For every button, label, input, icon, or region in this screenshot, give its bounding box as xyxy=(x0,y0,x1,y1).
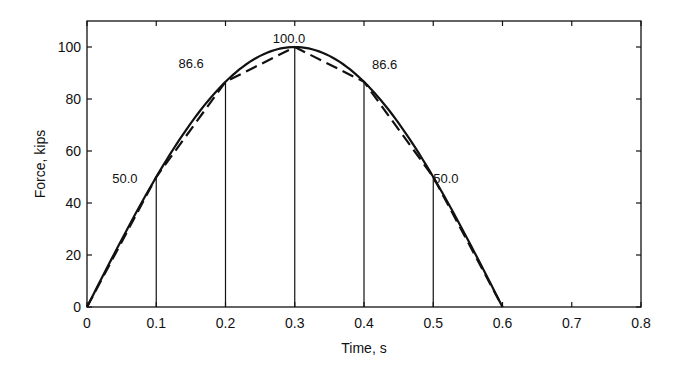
vertical-reference-lines xyxy=(156,47,433,307)
data-point-label: 86.6 xyxy=(372,57,397,72)
y-tick-label: 40 xyxy=(65,195,81,211)
x-tick-label: 0.5 xyxy=(424,315,444,331)
x-tick-label: 0.6 xyxy=(493,315,513,331)
data-point-label: 100.0 xyxy=(273,31,306,46)
y-tick-label: 80 xyxy=(65,91,81,107)
force-time-chart: 00.10.20.30.40.50.60.70.8 020406080100 5… xyxy=(0,0,680,367)
x-tick-label: 0.8 xyxy=(631,315,651,331)
x-tick-label: 0.1 xyxy=(147,315,167,331)
y-axis-label: Force, kips xyxy=(32,130,48,198)
data-point-label: 50.0 xyxy=(433,171,458,186)
y-tick-label: 60 xyxy=(65,143,81,159)
y-tick-label: 20 xyxy=(65,247,81,263)
data-point-label: 86.6 xyxy=(179,56,204,71)
x-axis-label: Time, s xyxy=(341,340,386,356)
x-tick-label: 0.4 xyxy=(354,315,374,331)
x-tick-label: 0 xyxy=(83,315,91,331)
y-tick-label: 0 xyxy=(73,299,81,315)
x-tick-label: 0.7 xyxy=(562,315,582,331)
y-tick-label: 100 xyxy=(58,39,82,55)
x-axis-ticks: 00.10.20.30.40.50.60.70.8 xyxy=(83,21,651,331)
x-tick-label: 0.2 xyxy=(216,315,236,331)
data-point-label: 50.0 xyxy=(112,171,137,186)
y-axis-ticks: 020406080100 xyxy=(58,39,641,315)
x-tick-label: 0.3 xyxy=(285,315,305,331)
